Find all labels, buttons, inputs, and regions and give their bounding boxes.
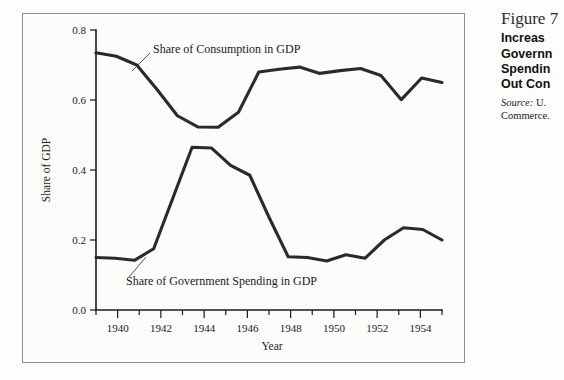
caption-title-line: Governn — [501, 47, 564, 62]
x-tick-label: 1950 — [323, 322, 346, 334]
y-tick-label: 0.0 — [72, 304, 86, 316]
series-line-government — [96, 147, 442, 261]
caption-title-line: Out Con — [501, 77, 564, 92]
x-tick-label: 1948 — [280, 322, 303, 334]
y-tick-label: 0.6 — [72, 94, 86, 106]
caption-title: IncreasGovernnSpendinOut Con — [501, 31, 564, 92]
x-tick-label: 1940 — [107, 322, 130, 334]
x-axis-title: Year — [261, 340, 282, 352]
caption-source: Source: U.Commerce. — [501, 97, 564, 122]
caption-source-label: Source: — [501, 97, 533, 108]
x-tick-label: 1954 — [409, 322, 432, 334]
series-label-consumption: Share of Consumption in GDP — [153, 42, 301, 56]
y-axis-ticks — [90, 30, 96, 310]
x-axis-ticks — [96, 310, 442, 318]
caption-title-line: Increas — [501, 31, 564, 46]
y-tick-label: 0.2 — [72, 234, 86, 246]
x-tick-label: 1944 — [193, 322, 216, 334]
y-axis-tick-labels: 0.00.20.40.60.8 — [72, 24, 86, 316]
caption-title-line: Spendin — [501, 62, 564, 77]
series-label-government: Share of Government Spending in GDP — [126, 274, 317, 288]
y-tick-label: 0.4 — [72, 164, 86, 176]
caption-source-line: Commerce. — [501, 110, 564, 122]
caption-source-line: Source: U. — [501, 97, 564, 109]
x-tick-label: 1946 — [236, 322, 259, 334]
figure-caption: Figure 7 IncreasGovernnSpendinOut Con So… — [501, 10, 564, 122]
x-tick-label: 1942 — [150, 322, 172, 334]
series-line-consumption — [96, 53, 442, 128]
y-tick-label: 0.8 — [72, 24, 86, 36]
chart-plot-area: 0.00.20.40.60.8 194019421944194619481950… — [22, 13, 465, 363]
caption-figure-number: Figure 7 — [501, 10, 564, 28]
x-tick-label: 1952 — [366, 322, 388, 334]
y-axis-title: Share of GDP — [40, 138, 52, 203]
x-axis-tick-labels: 19401942194419461948195019521954 — [107, 322, 432, 334]
